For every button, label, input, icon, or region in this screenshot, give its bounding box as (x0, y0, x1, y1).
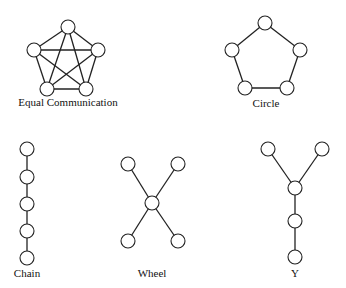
node-circle (293, 43, 307, 57)
network-circle: Circle (225, 16, 307, 109)
node-circle (40, 82, 54, 96)
edge (34, 50, 86, 89)
communication-networks-diagram: Equal Communication Circle Chain Wheel Y (0, 0, 346, 288)
node-circle (171, 157, 185, 171)
node-circle (121, 157, 135, 171)
node-circle (20, 197, 34, 211)
node-circle (261, 142, 275, 156)
node-circle (225, 43, 239, 57)
node-circle (258, 16, 272, 30)
node-circle (61, 20, 75, 34)
network-chain: Chain (14, 142, 41, 279)
network-y: Y (261, 142, 329, 279)
node-circle (145, 196, 159, 210)
network-label: Chain (14, 267, 41, 279)
node-circle (171, 234, 185, 248)
network-equal-communication: Equal Communication (18, 20, 118, 108)
node-circle (238, 81, 252, 95)
node-circle (280, 81, 294, 95)
edge (47, 27, 68, 89)
node-circle (315, 142, 329, 156)
network-label: Y (291, 267, 299, 279)
network-label: Equal Communication (18, 96, 118, 108)
node-circle (288, 250, 302, 264)
network-wheel: Wheel (121, 157, 185, 279)
node-circle (20, 142, 34, 156)
node-circle (288, 214, 302, 228)
node-circle (121, 234, 135, 248)
node-circle (79, 82, 93, 96)
node-circle (20, 170, 34, 184)
network-label: Circle (253, 97, 280, 109)
node-circle (27, 43, 41, 57)
node-circle (20, 251, 34, 265)
node-circle (91, 43, 105, 57)
edge (68, 27, 86, 89)
network-label: Wheel (138, 267, 167, 279)
node-circle (288, 181, 302, 195)
node-circle (20, 224, 34, 238)
